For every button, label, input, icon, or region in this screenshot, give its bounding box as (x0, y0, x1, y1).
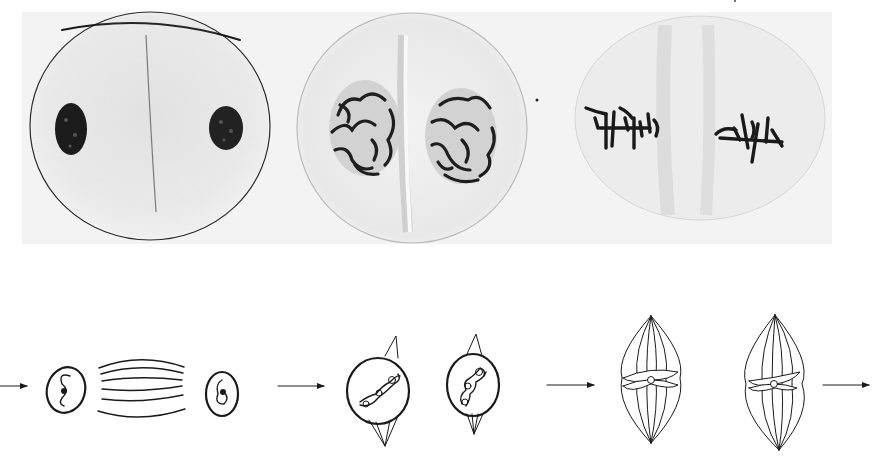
division-furrow (663, 25, 668, 215)
micrograph-row (22, 0, 832, 244)
centrosome-top (467, 334, 482, 356)
nucleolus-left (61, 388, 67, 394)
nucleus-right (209, 106, 243, 150)
centromere (771, 381, 778, 388)
centrosome-top (385, 336, 398, 358)
centromere (648, 377, 655, 384)
prophase-cell-left (347, 336, 409, 446)
mitosis-figure (0, 0, 889, 476)
nucleus-right-chromatin (425, 88, 497, 184)
prophase-schematic (347, 334, 499, 446)
spindle-right (745, 315, 805, 450)
spindle-left (621, 316, 681, 443)
spindle-fibers (98, 360, 185, 417)
schematic-row (0, 315, 869, 450)
metaphase-schematic (621, 315, 804, 450)
prophase-cell-right (447, 334, 499, 434)
nucleolus-right (220, 389, 226, 395)
nuclear-envelope (447, 354, 499, 416)
chromosome-strand (360, 376, 400, 402)
nucleus-left-chromatin (329, 80, 401, 176)
telophase-schematic (42, 360, 238, 417)
speck (536, 99, 539, 102)
micrograph-telophase (30, 12, 270, 240)
